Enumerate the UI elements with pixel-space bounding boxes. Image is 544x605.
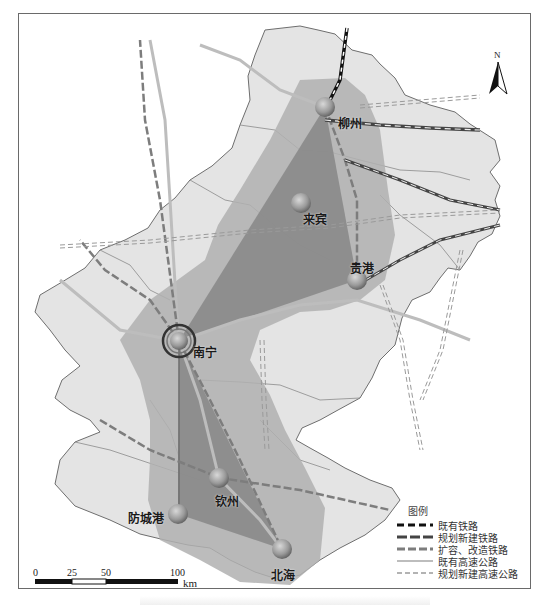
city-label-liuzhou: 柳州 (338, 114, 362, 131)
figure-caption-cropped (140, 596, 430, 605)
legend: 图例 既有铁路 规划新建铁路 扩容、改造铁路 既有高速公路 规划新建高速公路 (395, 503, 530, 579)
north-arrow-icon (489, 62, 507, 94)
city-node-qinzhou (209, 468, 229, 488)
upgrade-rail-swatch-icon (395, 543, 435, 555)
city-node-nanning (170, 332, 188, 350)
city-label-beihai: 北海 (271, 566, 295, 583)
city-label-guigang: 贵港 (350, 259, 374, 276)
city-label-nanning: 南宁 (193, 343, 217, 360)
city-label-qinzhou: 钦州 (215, 492, 239, 509)
scale-bar: 0 25 50 100 km (30, 567, 200, 589)
legend-item-planned-highway: 规划新建高速公路 (395, 567, 530, 579)
scale-tick-25: 25 (67, 567, 77, 578)
city-node-fangchenggang (168, 504, 188, 524)
planned-highway-swatch-icon (395, 567, 435, 579)
legend-title: 图例 (408, 503, 530, 518)
scale-tick-0: 0 (33, 567, 38, 578)
city-label-laibin: 来宾 (303, 210, 327, 227)
city-node-beihai (272, 539, 292, 559)
city-label-fangchenggang: 防城港 (128, 509, 164, 526)
existing-rail-swatch-icon (395, 519, 435, 531)
city-node-liuzhou (315, 97, 335, 117)
north-label: N (494, 50, 501, 60)
scale-tick-50: 50 (101, 567, 111, 578)
planned-rail-swatch-icon (395, 531, 435, 543)
scale-unit: km (183, 577, 197, 589)
existing-highway-swatch-icon (395, 555, 435, 567)
